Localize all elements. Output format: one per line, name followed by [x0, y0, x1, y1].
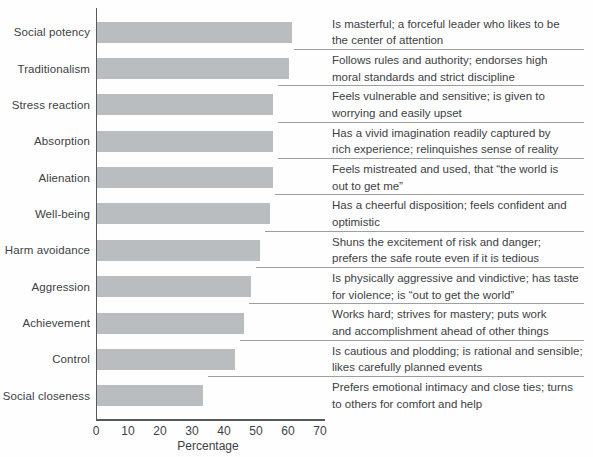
bar-alienation	[97, 167, 273, 188]
x-axis-tick-label: 20	[147, 424, 173, 438]
category-label: Harm avoidance	[0, 232, 90, 268]
trait-description-line: Follows rules and authority; endorses hi…	[332, 52, 588, 69]
trait-description-line: out to get me”	[332, 178, 588, 195]
category-label: Stress reaction	[0, 87, 90, 123]
trait-description-line: Has a cheerful disposition; feels confid…	[332, 197, 588, 214]
bar-social-closeness	[97, 385, 203, 406]
description-separator	[275, 194, 584, 195]
trait-description-line: the center of attention	[332, 32, 588, 49]
trait-description-line: rich experience; relinquishes sense of r…	[332, 141, 588, 158]
description-separator	[249, 303, 584, 304]
description-separator	[208, 376, 584, 377]
trait-description: Feels mistreated and used, that “the wor…	[332, 159, 588, 195]
trait-description-line: Has a vivid imagination readily captured…	[332, 125, 588, 142]
bar-well-being	[97, 203, 270, 224]
trait-description-line: Is physically aggressive and vindictive;…	[332, 270, 588, 287]
trait-description: Has a vivid imagination readily captured…	[332, 123, 588, 159]
description-separator	[278, 122, 584, 123]
trait-description-line: Is masterful; a forceful leader who like…	[332, 16, 588, 33]
category-label: Achievement	[0, 305, 90, 341]
trait-description-line: Feels vulnerable and sensitive; is given…	[332, 88, 588, 105]
trait-description-line: likes carefully planned events	[332, 359, 588, 376]
category-label: Control	[0, 341, 90, 377]
trait-description: Is masterful; a forceful leader who like…	[332, 14, 588, 50]
description-separator	[240, 340, 584, 341]
category-label: Social closeness	[0, 378, 90, 414]
x-axis-line	[96, 419, 325, 421]
category-label: Traditionalism	[0, 50, 90, 86]
bar-aggression	[97, 276, 251, 297]
trait-description-line: to others for comfort and help	[332, 396, 588, 413]
category-label: Aggression	[0, 268, 90, 304]
trait-description: Feels vulnerable and sensitive; is given…	[332, 87, 588, 123]
category-label: Absorption	[0, 123, 90, 159]
trait-description: Has a cheerful disposition; feels confid…	[332, 196, 588, 232]
trait-description: Is cautious and plodding; is rational an…	[332, 341, 588, 377]
trait-description-line: Feels mistreated and used, that “the wor…	[332, 161, 588, 178]
category-label: Social potency	[0, 14, 90, 50]
trait-description-line: Prefers emotional intimacy and close tie…	[332, 379, 588, 396]
trait-description: Prefers emotional intimacy and close tie…	[332, 378, 588, 414]
trait-description-line: and accomplishment ahead of other things	[332, 323, 588, 340]
trait-description-line: prefers the safe route even if it is ted…	[332, 250, 588, 267]
description-separator	[256, 267, 584, 268]
y-axis-line	[96, 8, 98, 420]
bar-traditionalism	[97, 58, 289, 79]
category-label: Well-being	[0, 196, 90, 232]
trait-description-line: optimistic	[332, 214, 588, 231]
description-separator	[278, 85, 584, 86]
category-label: Alienation	[0, 159, 90, 195]
trait-description: Is physically aggressive and vindictive;…	[332, 268, 588, 304]
trait-description-line: for violence; is “out to get the world”	[332, 287, 588, 304]
bar-stress-reaction	[97, 94, 273, 115]
x-axis-tick-label: 30	[179, 424, 205, 438]
description-separator	[278, 158, 584, 159]
bar-social-potency	[97, 22, 292, 43]
bar-harm-avoidance	[97, 240, 260, 261]
bar-achievement	[97, 313, 244, 334]
heritability-of-personality-traits-chart: Social potencyIs masterful; a forceful l…	[0, 0, 593, 457]
trait-description: Works hard; strives for mastery; puts wo…	[332, 305, 588, 341]
trait-description-line: Is cautious and plodding; is rational an…	[332, 343, 588, 360]
x-axis-tick-label: 70	[307, 424, 333, 438]
trait-description-line: Shuns the excitement of risk and danger;	[332, 234, 588, 251]
trait-description-line: moral standards and strict discipline	[332, 69, 588, 86]
trait-description: Follows rules and authority; endorses hi…	[332, 50, 588, 86]
trait-description-line: Works hard; strives for mastery; puts wo…	[332, 306, 588, 323]
description-separator	[265, 231, 584, 232]
trait-description-line: worrying and easily upset	[332, 105, 588, 122]
x-axis-tick-label: 60	[275, 424, 301, 438]
x-axis-tick-label: 50	[243, 424, 269, 438]
description-separator	[294, 49, 584, 50]
x-axis-tick-label: 0	[83, 424, 109, 438]
x-axis-tick-label: 10	[115, 424, 141, 438]
bar-absorption	[97, 131, 273, 152]
bar-control	[97, 349, 235, 370]
x-axis-tick-label: 40	[211, 424, 237, 438]
x-axis-title: Percentage	[96, 439, 320, 453]
trait-description: Shuns the excitement of risk and danger;…	[332, 232, 588, 268]
